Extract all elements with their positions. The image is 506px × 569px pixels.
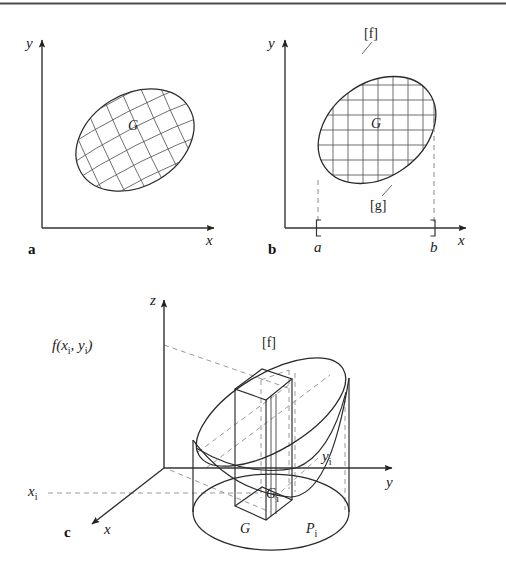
figure-container: G y x a bbox=[0, 0, 506, 569]
panel-c-height-label: f(xi, yi) bbox=[52, 337, 93, 356]
panel-a-y-axis-label: y bbox=[24, 35, 33, 51]
panel-a: G y x a bbox=[24, 35, 222, 257]
panel-b-interval-left-label: a bbox=[314, 239, 322, 255]
panel-b-y-axis-label: y bbox=[266, 35, 275, 51]
panel-b-interval-right-label: b bbox=[430, 239, 438, 255]
panel-c-letter: c bbox=[64, 524, 71, 540]
panel-c-height-leader bbox=[164, 345, 288, 388]
panel-b-letter: b bbox=[268, 241, 276, 257]
panel-c-tilt-guide-2 bbox=[206, 375, 330, 468]
panel-a-region-label: G bbox=[128, 118, 138, 133]
panel-a-curvilinear-grid bbox=[49, 48, 222, 218]
panel-c-base-label: G bbox=[240, 521, 250, 536]
panel-b-lower-curve-label: [g] bbox=[370, 198, 386, 213]
panel-c-surface-label: [f] bbox=[262, 335, 276, 350]
panel-c-x-axis bbox=[92, 468, 164, 524]
panel-c-x-axis-label: x bbox=[103, 521, 111, 537]
panel-b: [f] [g] G a b y x b bbox=[266, 26, 466, 257]
panel-a-letter: a bbox=[28, 241, 36, 257]
panel-b-region-label: G bbox=[371, 116, 381, 131]
panel-c-y-axis-label: y bbox=[384, 474, 393, 490]
panel-b-upper-leader bbox=[362, 42, 372, 54]
panel-b-lower-leader bbox=[382, 185, 392, 196]
panel-c-cell-label: Gi bbox=[266, 486, 279, 504]
panel-c: f(xi, yi) [f] z y x xi yi Gi G Pi c bbox=[27, 292, 393, 550]
panel-b-x-axis-label: x bbox=[457, 232, 465, 248]
panel-a-x-axis-label: x bbox=[205, 232, 213, 248]
panel-c-xi-label: xi bbox=[27, 483, 38, 502]
panel-c-construction-lines bbox=[48, 345, 345, 512]
mathematical-figure: G y x a bbox=[0, 0, 506, 569]
panel-b-upper-curve-label: [f] bbox=[364, 26, 378, 41]
panel-c-point-label: Pi bbox=[305, 521, 318, 539]
panel-c-z-axis-label: z bbox=[149, 292, 156, 308]
panel-c-base-helper bbox=[170, 470, 270, 512]
